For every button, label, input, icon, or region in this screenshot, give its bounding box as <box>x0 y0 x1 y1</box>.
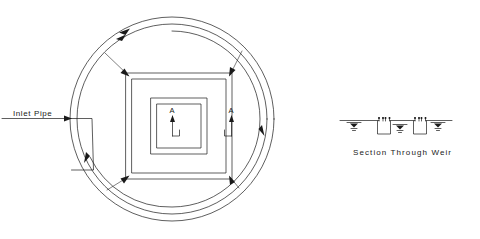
weir-square-inner-1 <box>151 98 207 154</box>
weir-square-inner-2 <box>157 104 201 148</box>
engineering-drawing-canvas: Inlet Pipe <box>0 0 480 239</box>
flow-channel-arc <box>90 31 260 207</box>
section-through-weir-group: Section Through Weir <box>340 117 452 157</box>
water-level-symbol-2 <box>393 125 407 133</box>
corner-leader-top-right <box>229 51 242 77</box>
weir-square-outer-1 <box>126 73 232 179</box>
central-weir-structure <box>126 73 232 179</box>
weir-notch-box-1 <box>378 117 391 134</box>
weir-notch-box-2 <box>414 117 427 134</box>
flow-arrow-top-left <box>116 35 126 42</box>
inlet-pipe-label: Inlet Pipe <box>13 109 52 118</box>
water-level-symbol-3 <box>431 123 445 131</box>
corner-leader-bottom-left <box>107 176 130 191</box>
weir-square-outer-2 <box>132 79 226 173</box>
water-level-symbol-1 <box>347 123 361 131</box>
section-marker-a-right-label: A <box>229 106 234 115</box>
plan-view-group: Inlet Pipe <box>2 17 274 221</box>
corner-leader-top-left <box>105 53 130 77</box>
section-marker-a-left-label: A <box>170 106 175 115</box>
section-marker-a-left: A <box>170 106 180 136</box>
flow-arrow-outer-top <box>119 29 130 36</box>
section-through-weir-caption: Section Through Weir <box>353 148 452 157</box>
